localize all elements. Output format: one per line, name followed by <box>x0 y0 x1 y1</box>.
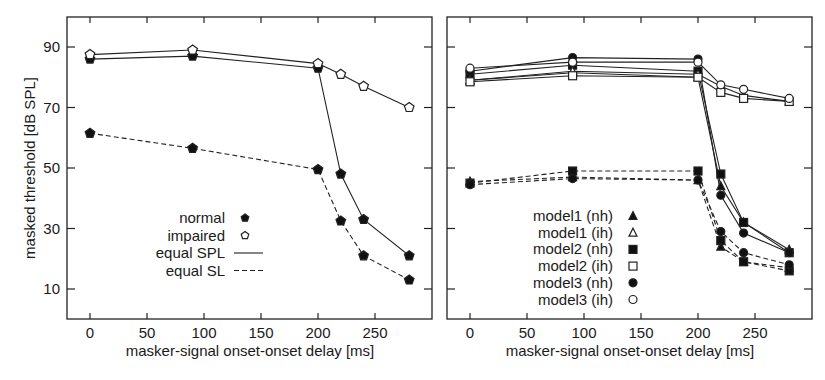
y-tick-label: 50 <box>43 159 60 176</box>
x-tick-label: 100 <box>191 324 216 341</box>
open-circle-marker-icon <box>785 94 793 102</box>
right-panel: 050100150200250 model1 (nh)model1 (ih)mo… <box>447 17 812 359</box>
open-pentagon-marker-icon <box>241 232 249 239</box>
x-axis-label: masker-signal onset-onset delay [ms] <box>126 342 374 359</box>
legend-label: model2 (nh) <box>533 240 613 257</box>
series-markers <box>85 45 414 112</box>
open-pentagon-marker-icon <box>404 103 414 112</box>
open-pentagon-marker-icon <box>359 81 369 90</box>
y-tick-label: 90 <box>43 38 60 55</box>
filled-square-marker-icon <box>569 167 577 175</box>
filled-square-marker-icon <box>629 245 637 253</box>
legend-label: normal <box>179 209 225 226</box>
open-square-marker-icon <box>694 73 702 81</box>
legend: normalimpairedequal SPLequal SL <box>156 209 263 279</box>
legend-label: equal SPL <box>156 244 225 261</box>
x-tick-label: 0 <box>86 324 94 341</box>
filled-circle-marker-icon <box>694 176 702 184</box>
legend-label: model2 (ih) <box>538 257 613 274</box>
filled-pentagon-marker-icon <box>404 251 414 260</box>
legend-label: model1 (nh) <box>533 207 613 224</box>
open-triangle-marker-icon <box>629 228 637 236</box>
open-circle-marker-icon <box>694 58 702 66</box>
open-circle-marker-icon <box>569 58 577 66</box>
legend-label: model3 (ih) <box>538 291 613 308</box>
figure: 0501001502002501030507090 normalimpaired… <box>0 0 825 380</box>
filled-square-marker-icon <box>717 237 725 245</box>
x-tick-label: 250 <box>362 324 387 341</box>
x-tick-label: 150 <box>248 324 273 341</box>
data-series <box>466 54 793 275</box>
filled-pentagon-marker-icon <box>188 143 198 152</box>
x-tick-label: 100 <box>571 324 596 341</box>
series-line <box>90 50 409 108</box>
filled-circle-marker-icon <box>785 261 793 269</box>
x-tick-label: 50 <box>519 324 536 341</box>
y-tick-label: 30 <box>43 220 60 237</box>
open-pentagon-marker-icon <box>85 50 95 59</box>
open-pentagon-marker-icon <box>336 69 346 78</box>
filled-circle-marker-icon <box>717 191 725 199</box>
filled-square-marker-icon <box>694 167 702 175</box>
filled-square-marker-icon <box>740 258 748 266</box>
y-tick-label: 70 <box>43 99 60 116</box>
filled-circle-marker-icon <box>629 279 637 287</box>
filled-pentagon-marker-icon <box>404 275 414 284</box>
open-pentagon-marker-icon <box>313 59 323 68</box>
open-circle-marker-icon <box>629 296 637 304</box>
legend-label: model3 (nh) <box>533 274 613 291</box>
series-markers <box>85 128 414 284</box>
filled-circle-marker-icon <box>740 229 748 237</box>
filled-pentagon-marker-icon <box>241 214 249 221</box>
y-tick-label: 10 <box>43 280 60 297</box>
plot-frame <box>67 17 432 319</box>
data-series <box>85 45 414 284</box>
x-tick-label: 50 <box>139 324 156 341</box>
filled-circle-marker-icon <box>717 228 725 236</box>
filled-circle-marker-icon <box>785 249 793 257</box>
open-square-marker-icon <box>629 262 637 270</box>
filled-pentagon-marker-icon <box>359 214 369 223</box>
axis-ticks: 0501001502002501030507090 <box>43 17 432 341</box>
filled-pentagon-marker-icon <box>359 251 369 260</box>
x-tick-label: 250 <box>742 324 767 341</box>
x-axis-label: masker-signal onset-onset delay [ms] <box>506 342 754 359</box>
filled-pentagon-marker-icon <box>313 165 323 174</box>
filled-circle-marker-icon <box>740 249 748 257</box>
filled-pentagon-marker-icon <box>336 169 346 178</box>
filled-square-marker-icon <box>740 218 748 226</box>
open-square-marker-icon <box>717 88 725 96</box>
x-tick-label: 0 <box>466 324 474 341</box>
open-square-marker-icon <box>569 72 577 80</box>
y-axis-label: masked threshold [dB SPL] <box>21 77 38 259</box>
open-circle-marker-icon <box>740 85 748 93</box>
left-panel: 0501001502002501030507090 normalimpaired… <box>21 17 432 359</box>
legend-label: equal SL <box>166 262 225 279</box>
open-circle-marker-icon <box>717 81 725 89</box>
legend-label: impaired <box>167 227 225 244</box>
open-square-marker-icon <box>740 94 748 102</box>
legend-label: model1 (ih) <box>538 224 613 241</box>
filled-triangle-marker-icon <box>717 182 725 190</box>
filled-circle-marker-icon <box>466 181 474 189</box>
filled-circle-marker-icon <box>569 175 577 183</box>
filled-pentagon-marker-icon <box>336 216 346 225</box>
x-tick-label: 200 <box>305 324 330 341</box>
filled-square-marker-icon <box>717 170 725 178</box>
open-square-marker-icon <box>466 78 474 86</box>
x-tick-label: 150 <box>628 324 653 341</box>
filled-pentagon-marker-icon <box>85 128 95 137</box>
x-tick-label: 200 <box>685 324 710 341</box>
filled-triangle-marker-icon <box>629 212 637 220</box>
legend: model1 (nh)model1 (ih)model2 (nh)model2 … <box>533 207 637 308</box>
open-circle-marker-icon <box>466 64 474 72</box>
open-pentagon-marker-icon <box>188 45 198 54</box>
